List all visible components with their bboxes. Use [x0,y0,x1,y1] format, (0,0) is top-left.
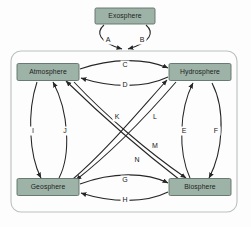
node-geosphere[interactable]: Geosphere [17,179,79,196]
diagram-canvas: Exosphere Atmosphere Hydrosphere Geosphe… [0,0,251,227]
edge-label-text-l: L [153,113,157,120]
edge-n [66,81,180,180]
node-atmosphere[interactable]: Atmosphere [17,64,79,81]
edge-label-m: M [150,142,160,151]
edge-label-text-k: K [115,113,120,120]
edge-label-e: E [180,127,189,136]
edge-label-text-j: J [63,127,67,134]
edge-m [74,82,186,178]
edge-label-l: L [152,113,160,122]
edge-label-text-g: G [122,176,127,183]
edge-label-text-h: H [122,196,127,203]
edge-label-text-i: I [32,127,34,134]
edge-label-text-c: C [122,61,127,68]
edge-label-c: C [121,61,130,70]
edge-label-text-n: N [134,156,139,163]
node-label-geosphere: Geosphere [31,183,66,191]
edge-label-a: A [104,36,113,45]
edge-label-d: D [121,81,130,90]
earth-systems-diagram: Exosphere Atmosphere Hydrosphere Geosphe… [0,0,251,227]
edge-label-j: J [61,127,69,136]
node-label-biosphere: Biosphere [184,183,216,191]
edge-label-i: I [29,127,37,136]
edge-label-text-d: D [122,81,127,88]
edge-label-text-m: M [152,142,158,149]
node-label-hydrosphere: Hydrosphere [180,68,220,76]
edge-label-text-a: A [106,36,111,43]
edge-label-k: K [113,113,122,122]
edge-label-h: H [121,196,130,205]
node-exosphere[interactable]: Exosphere [95,8,155,24]
edge-label-b: B [138,36,147,45]
edge-label-n: N [133,156,142,165]
edge-label-text-e: E [182,127,187,134]
node-hydrosphere[interactable]: Hydrosphere [169,64,231,81]
node-label-exosphere: Exosphere [108,12,142,20]
edge-label-f: F [212,127,221,136]
edge-label-text-b: B [140,36,145,43]
node-biosphere[interactable]: Biosphere [169,179,231,196]
node-label-atmosphere: Atmosphere [29,68,67,76]
edge-label-g: G [121,176,130,185]
edge-label-text-f: F [214,127,218,134]
